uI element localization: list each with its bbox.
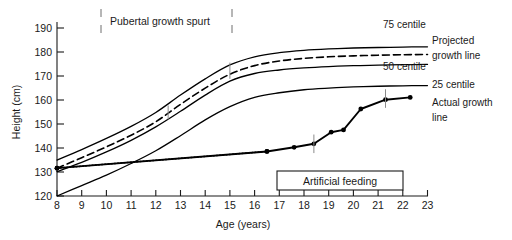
series-label-actual-growth-line: Actual growth line <box>432 97 493 123</box>
series-label-75-centile: 75 centile <box>383 19 426 30</box>
x-tick-20: 20 <box>348 199 360 211</box>
x-tick-11: 11 <box>126 199 137 211</box>
x-axis-title: Age (years) <box>216 218 270 230</box>
data-point-marker <box>265 149 270 154</box>
y-tick-120: 120 <box>34 190 52 202</box>
x-tick-21: 21 <box>372 199 384 211</box>
artificial-feeding-label: Artificial feeding <box>303 175 377 187</box>
x-axis <box>57 190 428 196</box>
label-projected-line-2: growth line <box>432 50 481 61</box>
x-tick-17: 17 <box>273 199 285 211</box>
data-point-marker <box>341 127 346 132</box>
label-25-centile: 25 centile <box>432 79 475 90</box>
series-projected-growth-line <box>57 54 428 168</box>
x-tick-8: 8 <box>54 199 60 211</box>
data-point-marker <box>329 130 334 135</box>
y-tick-190: 190 <box>34 22 52 34</box>
series-actual-growth-line <box>57 97 410 168</box>
growth-chart-figure: 190 180 170 160 150 140 130 120 Height (… <box>0 0 512 240</box>
series-50-centile <box>57 64 428 171</box>
x-tick-13: 13 <box>175 199 187 211</box>
y-tick-140: 140 <box>34 142 52 154</box>
x-tick-16: 16 <box>249 199 261 211</box>
series-label-projected-growth-line: Projected growth line <box>432 35 481 61</box>
x-tick-12: 12 <box>150 199 162 211</box>
label-75-centile: 75 centile <box>383 19 426 30</box>
chart-canvas: 190 180 170 160 150 140 130 120 Height (… <box>0 0 512 240</box>
y-tick-labels: 190 180 170 160 150 140 130 120 <box>34 22 52 202</box>
y-tick-180: 180 <box>34 46 52 58</box>
x-tick-labels: 8 9 10 11 12 13 14 15 16 17 18 19 20 21 … <box>54 199 433 211</box>
series-label-25-centile: 25 centile <box>432 79 475 90</box>
pubertal-growth-spurt-label: Pubertal growth spurt <box>110 15 210 27</box>
x-tick-23: 23 <box>422 199 434 211</box>
y-tick-150: 150 <box>34 118 52 130</box>
label-projected-line-1: Projected <box>432 35 474 46</box>
x-tick-9: 9 <box>79 199 85 211</box>
pubertal-growth-spurt-annotation: Pubertal growth spurt <box>101 9 232 33</box>
data-point-marker <box>408 95 413 100</box>
label-actual-line-2: line <box>432 112 448 123</box>
y-axis-title: Height (cm) <box>10 85 22 139</box>
x-tick-15: 15 <box>224 199 236 211</box>
x-tick-18: 18 <box>298 199 310 211</box>
curve-marker-layer <box>168 63 385 153</box>
series-label-50-centile: 50 centile <box>383 61 426 72</box>
x-tick-14: 14 <box>199 199 211 211</box>
data-point-marker <box>292 145 297 150</box>
data-point-marker <box>55 166 60 171</box>
data-point-marker <box>358 107 363 112</box>
y-tick-160: 160 <box>34 94 52 106</box>
x-tick-19: 19 <box>323 199 335 211</box>
x-tick-10: 10 <box>101 199 113 211</box>
x-tick-22: 22 <box>397 199 409 211</box>
y-tick-130: 130 <box>34 166 52 178</box>
label-actual-line-1: Actual growth <box>432 97 493 108</box>
artificial-feeding-annotation: Artificial feeding <box>277 171 403 190</box>
series-75-centile <box>57 47 428 160</box>
label-50-centile: 50 centile <box>383 61 426 72</box>
y-tick-170: 170 <box>34 70 52 82</box>
